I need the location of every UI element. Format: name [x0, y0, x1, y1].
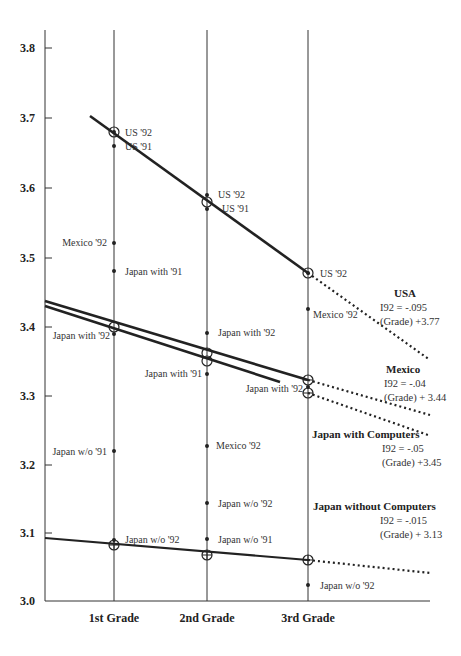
svg-text:I92 = -.095: I92 = -.095 — [380, 302, 427, 313]
label-g3-us92: US '92 — [320, 268, 347, 279]
equation-japan-with: Japan with Computers I92 = -.05 (Grade) … — [312, 428, 442, 469]
label-g2-jwo92: Japan w/o '92 — [218, 498, 273, 509]
y-tick-3.6: 3.6 — [20, 181, 35, 195]
label-g1-jw92: Japan with '92 — [53, 330, 110, 341]
svg-text:I92 = -.04: I92 = -.04 — [384, 378, 427, 389]
label-g2-jw92: Japan with '92 — [218, 327, 275, 338]
y-tick-3.7: 3.7 — [20, 111, 35, 125]
y-tick-labels: 3.8 3.7 3.6 3.5 3.4 3.3 3.2 3.1 3.0 — [20, 41, 35, 608]
y-tick-3.5: 3.5 — [20, 251, 35, 265]
svg-text:(Grade) +3.77: (Grade) +3.77 — [380, 316, 440, 328]
svg-text:(Grade) +3.45: (Grade) +3.45 — [382, 457, 442, 469]
equation-usa: USA I92 = -.095 (Grade) +3.77 — [380, 287, 440, 328]
svg-text:I92 = -.05: I92 = -.05 — [382, 443, 424, 454]
label-g1-mex92: Mexico '92 — [62, 237, 107, 248]
regression-chart: 3.8 3.7 3.6 3.5 3.4 3.3 3.2 3.1 3.0 1st … — [0, 0, 461, 656]
label-g1-us92: US '92 — [125, 127, 152, 138]
label-g3-mex92: Mexico '92 — [313, 309, 358, 320]
svg-text:I92 = -.015: I92 = -.015 — [380, 515, 427, 526]
y-tick-3.0: 3.0 — [20, 594, 35, 608]
equation-japan-without: Japan without Computers I92 = -.015 (Gra… — [313, 500, 442, 541]
label-g2-mex92: Mexico '92 — [216, 440, 261, 451]
y-tick-3.3: 3.3 — [20, 389, 35, 403]
svg-text:Mexico: Mexico — [386, 363, 421, 375]
y-tick-3.8: 3.8 — [20, 41, 35, 55]
y-tick-3.1: 3.1 — [20, 526, 35, 540]
x-label-3rd-grade: 3rd Grade — [281, 611, 335, 625]
svg-text:(Grade) + 3.44: (Grade) + 3.44 — [384, 392, 447, 404]
label-g2-jwo91: Japan w/o '91 — [218, 534, 273, 545]
usa-line — [90, 116, 308, 273]
label-g1-us91: US '91 — [125, 141, 152, 152]
svg-text:Japan without Computers: Japan without Computers — [313, 500, 437, 512]
x-label-1st-grade: 1st Grade — [89, 611, 140, 625]
regression-markers — [109, 127, 313, 565]
y-ticks — [45, 48, 52, 533]
data-points — [112, 144, 310, 587]
y-tick-3.4: 3.4 — [20, 320, 35, 334]
equation-mexico: Mexico I92 = -.04 (Grade) + 3.44 — [384, 363, 447, 404]
svg-text:Japan with Computers: Japan with Computers — [312, 428, 420, 440]
label-g1-jw91: Japan with '91 — [125, 266, 182, 277]
y-tick-3.2: 3.2 — [20, 458, 35, 472]
label-g3-jw92: Japan with '92 — [246, 383, 303, 394]
label-g1-jwo92: Japan w/o '92 — [125, 534, 180, 545]
label-g3-jwo92: Japan w/o '92 — [320, 580, 375, 591]
svg-text:(Grade) + 3.13: (Grade) + 3.13 — [380, 529, 442, 541]
svg-text:USA: USA — [394, 287, 416, 299]
label-g1-jwo91: Japan w/o '91 — [52, 446, 107, 457]
x-label-2nd-grade: 2nd Grade — [179, 611, 235, 625]
label-g2-jw91: Japan with '91 — [145, 368, 202, 379]
label-g2-us92: US '92 — [218, 189, 245, 200]
label-g2-us91: US '91 — [222, 203, 249, 214]
